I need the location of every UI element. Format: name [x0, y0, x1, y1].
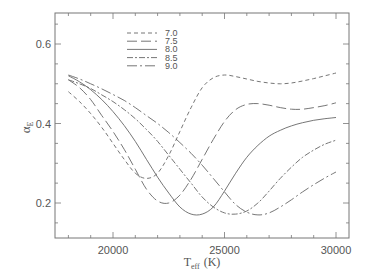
y-tick-label: 0.6 — [36, 38, 51, 50]
series-line-logg-8-5 — [68, 80, 336, 214]
y-tick-label: 0.2 — [36, 197, 51, 209]
y-label-sub: E — [26, 122, 35, 127]
chart: 2000025000300000.20.40.6 7.07.58.08.59.0… — [0, 0, 369, 279]
x-axis-label: Teff(K) — [184, 255, 221, 271]
series-line-logg-8-0 — [68, 76, 336, 215]
series-line-logg-9-0 — [68, 75, 336, 215]
x-tick-label: 30000 — [321, 244, 352, 256]
y-tick-label: 0.4 — [36, 118, 51, 130]
axis-ticks — [55, 13, 349, 238]
legend-label: 9.0 — [165, 61, 178, 71]
x-label-unit: (K) — [204, 255, 221, 269]
x-tick-label: 20000 — [98, 244, 129, 256]
x-label-sub: eff — [191, 262, 200, 271]
tick-labels: 2000025000300000.20.40.6 — [36, 38, 352, 256]
legend: 7.07.58.08.59.0 — [127, 28, 178, 71]
plot-border — [55, 13, 349, 238]
data-series — [68, 73, 336, 215]
y-axis-label: αE — [18, 122, 35, 134]
plot-frame — [55, 13, 349, 238]
